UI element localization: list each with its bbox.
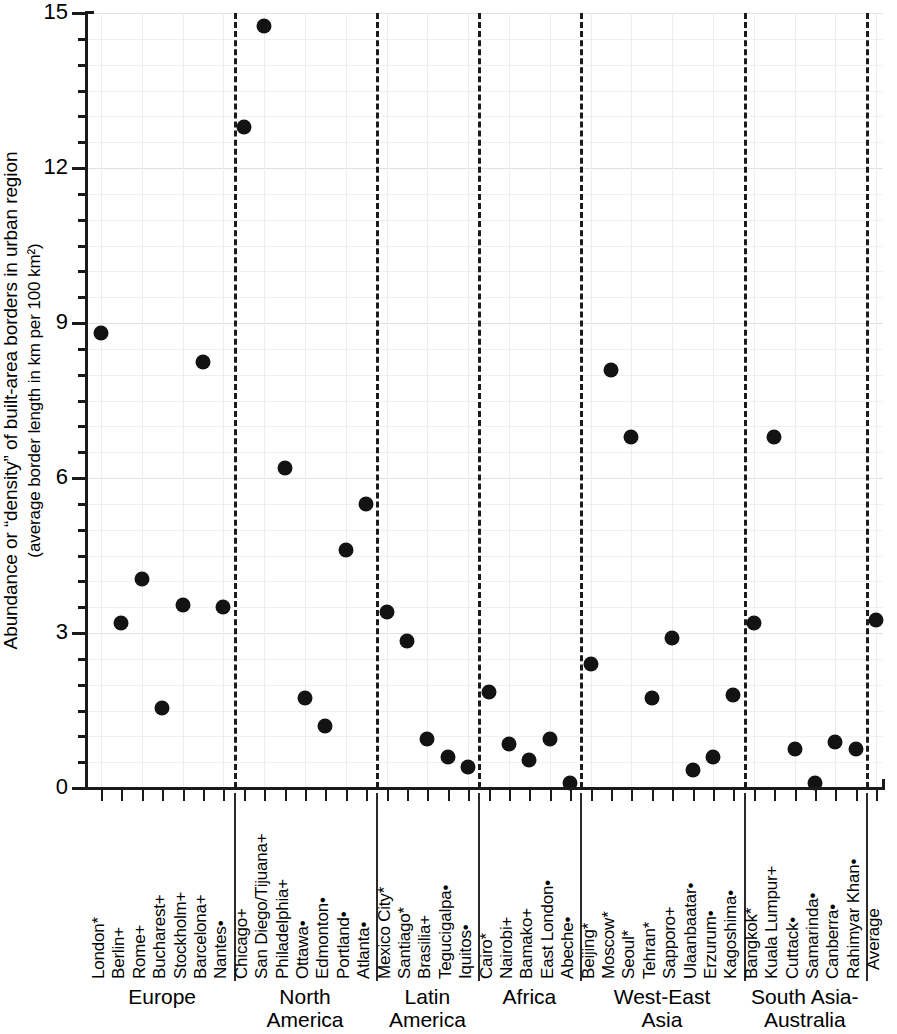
gridline-horizontal [88,452,883,453]
data-point [440,750,455,765]
category-label: Bamako+ [518,908,535,979]
category-label: Abeche• [559,917,576,979]
y-tick-minor [78,64,88,67]
category-label: Chicago+ [233,908,250,979]
data-point [298,690,313,705]
category-label: Samarinda• [804,893,821,979]
y-tick-minor [78,451,88,454]
category-label: Nantes• [212,921,229,979]
gridline-vertical [101,13,102,788]
category-label: Iquitos• [457,925,474,979]
category-label: Beijing* [580,923,597,979]
gridline-horizontal [88,194,883,195]
y-tick-minor [78,761,88,764]
data-point [828,734,843,749]
y-tick-minor [78,529,88,532]
gridline-horizontal [88,504,883,505]
category-label: Cairo* [478,933,495,979]
category-label: Stockholm+ [172,892,189,979]
data-point [420,731,435,746]
data-point [461,760,476,775]
gridline-horizontal [88,65,883,66]
region-label: West-EastAsia [580,985,743,1031]
data-point [114,615,129,630]
y-tick-minor [78,658,88,661]
data-point [665,631,680,646]
gridline-horizontal [88,220,883,221]
category-label: Moscow* [600,911,617,979]
gridline-vertical [264,13,265,788]
gridline-horizontal [88,142,883,143]
category-label: Tehran* [641,922,658,979]
region-label-line1: Africa [503,985,557,1008]
category-label: East London• [539,880,556,979]
group-separator [866,13,869,788]
gridline-horizontal [88,607,883,608]
gridline-vertical [591,13,592,788]
gridline-vertical [468,13,469,788]
gridline-vertical [672,13,673,788]
gridline-vertical [142,13,143,788]
category-label: London* [90,917,107,979]
gridline-horizontal [88,736,883,737]
data-point [338,543,353,558]
y-tick-major [72,787,88,790]
region-label: South Asia-Australia [744,985,866,1031]
region-label-line2: Australia [744,1008,866,1031]
data-point [481,685,496,700]
data-point [746,615,761,630]
gridline-horizontal [88,168,883,169]
y-tick-minor [78,38,88,41]
category-label: Ulaanbaatar• [682,883,699,979]
data-point [134,571,149,586]
category-label-band: EuropeNorthAmericaLatinAmericaAfricaWest… [0,793,897,1034]
y-tick-major [72,632,88,635]
y-tick-minor [78,90,88,93]
gridline-vertical [387,13,388,788]
y-tick-label: 3 [4,621,68,643]
y-tick-minor [78,219,88,222]
y-tick-minor [78,193,88,196]
gridline-vertical [346,13,347,788]
data-point [216,600,231,615]
category-label: Edmonton• [314,897,331,979]
group-separator [376,13,379,788]
y-tick-minor [78,296,88,299]
category-label: Bangkok* [743,908,760,979]
category-label: Atlanta• [355,922,372,979]
category-label: Nairobi+ [498,917,515,979]
gridline-vertical [876,13,877,788]
region-label-line1: South Asia- [751,985,858,1008]
category-label: Brasilia+ [416,915,433,979]
gridline-horizontal [88,556,883,557]
y-tick-minor [78,684,88,687]
category-label: Berlin+ [110,927,127,979]
gridline-horizontal [88,271,883,272]
data-point [787,742,802,757]
data-point [502,737,517,752]
category-label: Kagoshima• [722,890,739,979]
category-label: Kuala Lumpur+ [763,866,780,979]
y-tick-minor [78,400,88,403]
data-point [624,429,639,444]
gridline-vertical [183,13,184,788]
y-tick-major [72,167,88,170]
data-point [542,731,557,746]
category-label: Erzurum• [702,910,719,979]
y-tick-label: 15 [4,1,68,23]
gridline-horizontal [88,426,883,427]
gridline-vertical [509,13,510,788]
region-label: Europe [91,985,234,1008]
category-label: Seoul* [620,930,637,979]
data-point [767,429,782,444]
group-separator [744,13,747,788]
category-label: Average [865,908,882,970]
y-tick-minor [78,735,88,738]
y-tick-minor [78,555,88,558]
gridline-vertical [305,13,306,788]
region-label: NorthAmerica [234,985,377,1031]
y-axis-title-line2: (average border length in km per 100 km²… [26,243,45,557]
data-point [726,688,741,703]
gridline-horizontal [88,297,883,298]
category-label: Philadelphia+ [274,879,291,979]
